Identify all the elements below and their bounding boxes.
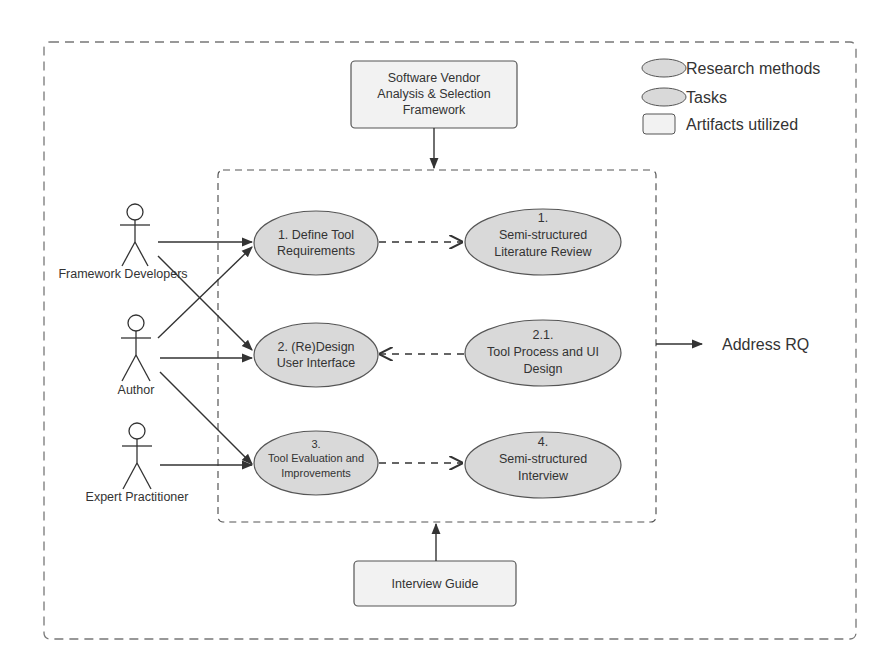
method-1-literature-review[interactable]: 1. Semi-structured Literature Review — [465, 209, 621, 275]
output-address-rq: Address RQ — [722, 336, 809, 353]
legend: Research methods Tasks Artifacts utilize… — [642, 59, 820, 134]
actor-author[interactable] — [121, 315, 151, 381]
artifact-interview-guide[interactable]: Interview Guide — [354, 561, 516, 606]
method-4-line-3: Interview — [518, 469, 569, 483]
actor-framework-developers[interactable] — [120, 204, 150, 266]
actor-head-icon — [129, 423, 145, 439]
method-1-line-2: Semi-structured — [499, 228, 587, 242]
artifact-software-vendor-framework[interactable]: Software Vendor Analysis & Selection Fra… — [351, 61, 517, 128]
actor-head-icon — [127, 204, 143, 220]
edge-author-to-task-1 — [158, 247, 252, 338]
legend-rect-icon — [643, 114, 675, 134]
artifact-bottom-label: Interview Guide — [392, 577, 479, 591]
edge-devs-to-task-2 — [158, 256, 252, 350]
actor-head-icon — [128, 315, 144, 331]
task-3-line-3: Improvements — [281, 467, 351, 479]
legend-label-research-methods: Research methods — [686, 60, 820, 77]
actor-label-author: Author — [118, 383, 155, 397]
diagram-canvas: Software Vendor Analysis & Selection Fra… — [0, 0, 896, 672]
method-2-1-line-1: 2.1. — [533, 328, 554, 342]
method-1-line-3: Literature Review — [494, 245, 592, 259]
actor-label-expert-practitioner: Expert Practitioner — [86, 490, 189, 504]
task-1-line-1: 1. Define Tool — [278, 228, 354, 242]
task-3-line-1: 3. — [311, 438, 320, 450]
artifact-top-line-3: Framework — [403, 103, 466, 117]
task-3-line-2: Tool Evaluation and — [268, 452, 364, 464]
method-4-semi-structured-interview[interactable]: 4. Semi-structured Interview — [465, 432, 621, 498]
legend-ellipse-icon — [642, 88, 686, 106]
artifact-top-line-2: Analysis & Selection — [377, 87, 490, 101]
method-2-1-line-2: Tool Process and UI — [487, 345, 599, 359]
task-3-tool-evaluation[interactable]: 3. Tool Evaluation and Improvements — [254, 431, 378, 495]
method-4-line-1: 4. — [538, 435, 548, 449]
legend-ellipse-icon — [642, 59, 686, 77]
artifact-top-line-1: Software Vendor — [388, 71, 480, 85]
task-2-line-1: 2. (Re)Design — [277, 340, 354, 354]
method-1-line-1: 1. — [538, 211, 548, 225]
task-2-line-2: User Interface — [277, 356, 356, 370]
task-1-line-2: Requirements — [277, 244, 355, 258]
method-2-1-line-3: Design — [524, 362, 563, 376]
legend-label-artifacts: Artifacts utilized — [686, 116, 798, 133]
task-2-redesign-user-interface[interactable]: 2. (Re)Design User Interface — [254, 323, 378, 387]
legend-label-tasks: Tasks — [686, 89, 727, 106]
actor-expert-practitioner[interactable] — [122, 423, 152, 489]
actor-label-framework-developers: Framework Developers — [58, 267, 187, 281]
method-2-1-tool-process-ui-design[interactable]: 2.1. Tool Process and UI Design — [465, 320, 621, 386]
edge-author-to-task-3 — [160, 372, 252, 464]
method-4-line-2: Semi-structured — [499, 452, 587, 466]
task-1-define-tool-requirements[interactable]: 1. Define Tool Requirements — [254, 211, 378, 275]
